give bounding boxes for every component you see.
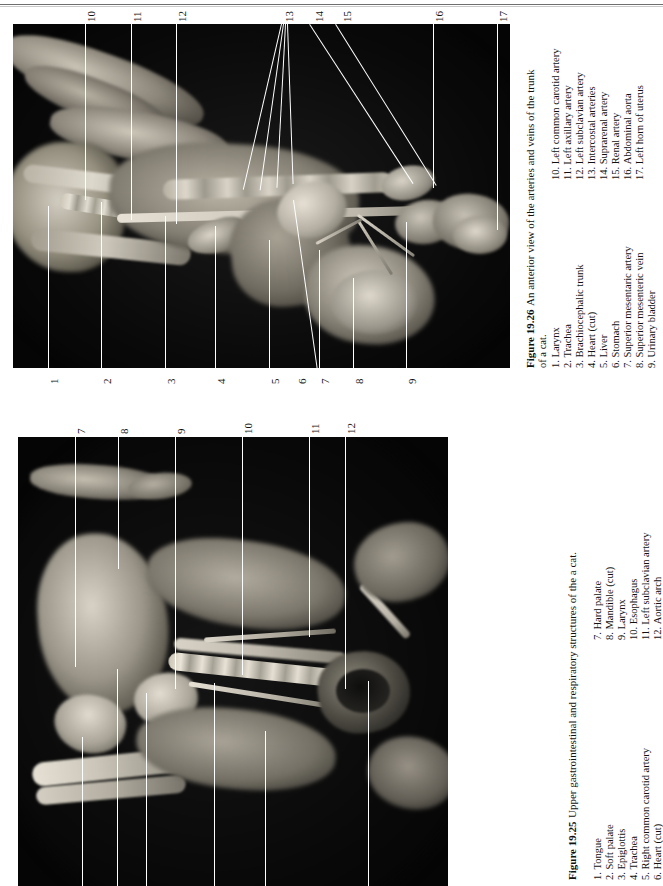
figure-19-26-legend-item-15: 15. Renal artery (610, 113, 621, 180)
figure-19-25-legend-item-3: 3. Epiglottis (616, 829, 627, 880)
callout-number-5: 5 (269, 379, 281, 385)
figure-19-26-legend-item-8: 8. Superior mesenteric vein (634, 253, 645, 368)
figure-19-26-legend-item-10: 10. Left common carotid artery (550, 49, 561, 181)
leader-line-10 (242, 437, 243, 675)
callout-number-10: 10 (85, 11, 97, 22)
figure-19-25-caption-text: Upper gastrointestinal and respiratory s… (566, 552, 578, 818)
leader-line-8 (118, 437, 119, 569)
figure-19-26-caption-number: Figure 19.26 (524, 310, 536, 368)
leader-line-12 (345, 437, 346, 689)
leader-line-5 (269, 240, 270, 368)
figure-19-26-legend-item-7: 7. Superior mesentaric artery (622, 246, 633, 368)
figure-19-26-legend-item-11: 11. Left axillary artery (562, 85, 573, 180)
figure-19-25-legend-item-10: 10. Esophagus (628, 579, 639, 640)
figure-19-25-photograph (18, 437, 448, 886)
figure-19-25-legend-item-5: 5. Right common carotid artery (640, 748, 651, 880)
leader-line-17 (497, 24, 498, 230)
callout-number-12: 12 (345, 423, 357, 434)
figure-19-26: 10 11 12 13 14 15 16 17 1 2 3 4 5 6 7 8 … (0, 0, 663, 400)
figure-19-26-legend-item-12: 12. Left subclavian artery (574, 72, 585, 180)
callout-number-7: 7 (319, 379, 331, 385)
leader-line-7 (75, 437, 76, 667)
leader-line-1 (48, 206, 49, 368)
figure-19-25-caption-number: Figure 19.25 (566, 822, 578, 880)
figure-19-26-legend-item-14: 14. Suprarenal artery (598, 92, 609, 180)
figure-19-26-legend-item-1: 1. Larynx (550, 327, 561, 368)
callout-number-9: 9 (175, 429, 187, 435)
callout-number-16: 16 (433, 11, 445, 22)
figure-19-25: 7 8 9 10 11 12 Figure 19.25 Upper gastro… (0, 420, 663, 886)
figure-19-26-legend-item-3: 3. Brachiocephalic trunk (574, 264, 585, 368)
callout-number-11: 11 (131, 11, 143, 22)
callout-number-8: 8 (353, 379, 365, 385)
figure-19-26-photograph (13, 24, 510, 368)
callout-number-6: 6 (296, 379, 308, 385)
figure-19-25-legend-item-11: 11. Left subclavian artery (640, 533, 651, 641)
figure-19-26-legend-item-16: 16. Abdominal aorta (622, 93, 633, 180)
leader-line-3 (146, 693, 147, 886)
leader-line-7 (319, 250, 320, 368)
callout-number-1: 1 (48, 379, 60, 385)
figure-19-26-legend-item-9: 9. Urinary bladder (646, 291, 657, 368)
leader-line-4 (214, 683, 215, 886)
leader-line-5 (265, 731, 266, 886)
callout-number-9: 9 (406, 379, 418, 385)
leader-line-4 (215, 226, 216, 368)
leader-line-6 (368, 681, 369, 886)
callout-number-3: 3 (165, 379, 177, 385)
leader-line-3 (165, 216, 166, 368)
figure-19-26-legend-item-4: 4. Heart (cut) (586, 312, 597, 368)
figure-19-26-legend-item-17: 17. Left horn of uterus (634, 85, 645, 180)
leader-line-2 (117, 669, 118, 886)
figure-19-26-legend-item-2: 2. Trachea (562, 324, 573, 368)
leader-line-16 (433, 24, 434, 188)
callout-number-2: 2 (101, 379, 113, 385)
callout-number-8: 8 (118, 429, 130, 435)
figure-19-26-legend-item-5: 5. Liver (598, 335, 609, 368)
leader-line-10 (85, 24, 86, 200)
callout-number-7: 7 (75, 429, 87, 435)
figure-19-25-legend-item-7: 7. Hard palate (592, 581, 603, 640)
figure-19-25-legend-item-4: 4. Trachea (628, 836, 639, 880)
callout-number-11: 11 (309, 423, 321, 434)
callout-number-14: 14 (313, 11, 325, 22)
leader-line-11 (309, 437, 310, 637)
callout-number-10: 10 (242, 423, 254, 434)
figure-19-26-legend-item-13: 13. Intercostal arteries (586, 86, 597, 180)
leader-line-11 (131, 24, 132, 220)
leader-line-2 (101, 202, 102, 368)
callout-number-4: 4 (215, 379, 227, 385)
leader-line-12 (176, 24, 177, 224)
figure-19-26-caption-text-2: of a cat. (537, 334, 548, 368)
leader-line-8 (353, 278, 354, 368)
callout-number-13: 13 (283, 11, 295, 22)
figure-19-25-legend-item-9: 9. Larynx (616, 599, 627, 640)
callout-number-12: 12 (176, 11, 188, 22)
callout-number-15: 15 (341, 11, 353, 22)
figure-19-25-legend-item-1: 1. Tongue (592, 838, 603, 880)
leader-line-9 (175, 437, 176, 689)
leader-line-9 (406, 222, 407, 368)
callout-number-17: 17 (497, 11, 509, 22)
leader-line-1 (82, 737, 83, 886)
figure-19-25-legend-item-6: 6. Heart (cut) (652, 824, 663, 880)
figure-19-26-legend-item-6: 6. Stomach (610, 321, 621, 368)
figure-19-25-legend-item-2: 2. Soft palate (604, 824, 615, 880)
figure-19-25-legend-item-12: 12. Aortic arch (652, 577, 663, 640)
figure-19-25-legend-item-8: 8. Mandible (cut) (604, 567, 615, 640)
figure-19-26-caption-text: An anterior view of the arteries and vei… (524, 70, 536, 306)
